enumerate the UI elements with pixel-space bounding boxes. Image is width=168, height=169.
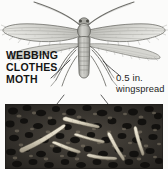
leader-line-to-larvae-left — [57, 95, 64, 104]
abdomen-icon — [78, 37, 90, 79]
moth-name-label: WEBBING CLOTHES MOTH — [6, 50, 58, 85]
head-thorax-icon — [78, 18, 91, 39]
larvae-photograph-panel — [5, 104, 163, 169]
moth-name-line-1: WEBBING — [6, 50, 58, 61]
larvae-photograph — [5, 104, 163, 169]
wingspread-label: 0.5 in. wingspread — [116, 73, 165, 94]
wingspread-word: wingspread — [116, 84, 165, 94]
leader-line-to-larvae-right — [101, 95, 108, 104]
moth-illustration-panel: WEBBING CLOTHES MOTH 0.5 in. wingspread — [0, 0, 168, 106]
wingspread-measure: 0.5 in. — [116, 73, 165, 83]
moth-name-line-3: MOTH — [6, 74, 58, 85]
webbing-clothes-moth-figure: WEBBING CLOTHES MOTH 0.5 in. wingspread — [0, 0, 168, 169]
page-bottom-smudge — [0, 163, 168, 169]
photo-leader-lines — [57, 95, 108, 104]
moth-name-line-2: CLOTHES — [6, 62, 58, 73]
